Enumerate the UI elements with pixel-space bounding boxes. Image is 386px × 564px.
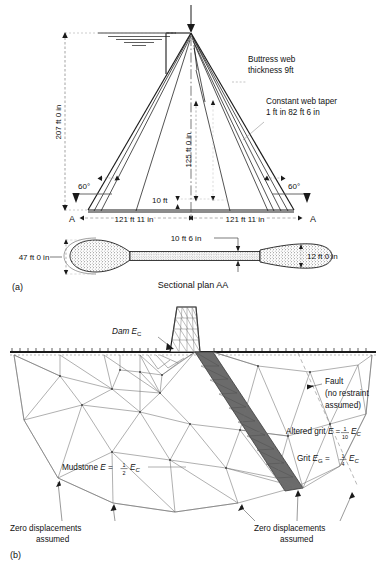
web-taper-label-line2: 1 ft in 82 ft 6 in — [266, 108, 320, 117]
web-taper-label-line1: Constant web taper — [266, 97, 337, 106]
zero-disp-right-line1: Zero displacements — [254, 524, 325, 533]
mudstone-prefix: Mudstone — [62, 463, 100, 472]
fault-label-line3: assumed) — [325, 401, 361, 410]
dim-plan-left-width-label: 47 ft 0 in — [19, 253, 50, 262]
altered-grit-numerator: 1 — [344, 426, 347, 432]
sectional-plan-title: Sectional plan AA — [158, 280, 229, 290]
buttress-web-label-line2: thickness 9ft — [248, 66, 294, 75]
dim-web-height-label: 125 ft 0 in — [184, 132, 193, 167]
svg-text:Mudstone E =: Mudstone E = — [62, 463, 113, 472]
svg-text:Altered grit E =: Altered grit E = — [286, 427, 341, 436]
section-marker-right-label: A — [310, 214, 316, 224]
grit-numerator: 1 — [342, 453, 345, 459]
zero-disp-left-line2: assumed — [36, 535, 70, 544]
altered-grit-denominator: 10 — [342, 434, 348, 440]
dam-label-sub: C — [137, 331, 142, 337]
dim-plan-web-width-label: 10 ft 6 in — [171, 234, 202, 243]
mudstone-denominator: 2 — [123, 470, 126, 476]
figure-container: 207 ft 0 in 125 ft 0 in 60° 60° — [0, 0, 386, 564]
grit-prefix: Grit — [297, 454, 312, 463]
zero-disp-left-line1: Zero displacements — [10, 524, 81, 533]
buttress-web-label-line1: Buttress web — [248, 55, 296, 64]
mudstone-eq: = — [106, 463, 113, 472]
fault-label-line1: Fault — [325, 377, 344, 386]
altered-grit-eq: = — [333, 427, 340, 436]
dim-base-left-label: 121 ft 11 in — [115, 215, 154, 224]
dam-label-text: Dam E — [112, 327, 138, 336]
fault-label-line2: (no restraint — [325, 389, 369, 398]
svg-text:Grit EG =: Grit EG = — [297, 454, 330, 464]
altered-grit-prefix: Altered grit — [286, 427, 328, 436]
zero-disp-right-line2: assumed — [280, 535, 314, 544]
grit-eq: = — [323, 454, 330, 463]
panel-a-caption: (a) — [12, 282, 23, 292]
angle-right-label: 60° — [288, 182, 300, 191]
grit-denominator: 4 — [342, 461, 345, 467]
section-marker-left-label: A — [69, 214, 75, 224]
dim-base-right-label: 121 ft 11 in — [226, 215, 265, 224]
dim-plan-web-thickness-label: 12 ft 0 in — [307, 252, 338, 261]
dim-base-thickness-label: 10 ft — [152, 196, 168, 205]
dim-overall-height-label: 207 ft 0 in — [54, 104, 63, 139]
plan-web-strip — [130, 252, 260, 261]
altered-grit-sub: C — [356, 431, 361, 437]
mudstone-sub: C — [135, 467, 140, 473]
grit-sub: C — [354, 458, 359, 464]
angle-left-label: 60° — [78, 182, 90, 191]
panel-b-caption: (b) — [10, 550, 21, 560]
mudstone-numerator: 1 — [123, 462, 126, 468]
